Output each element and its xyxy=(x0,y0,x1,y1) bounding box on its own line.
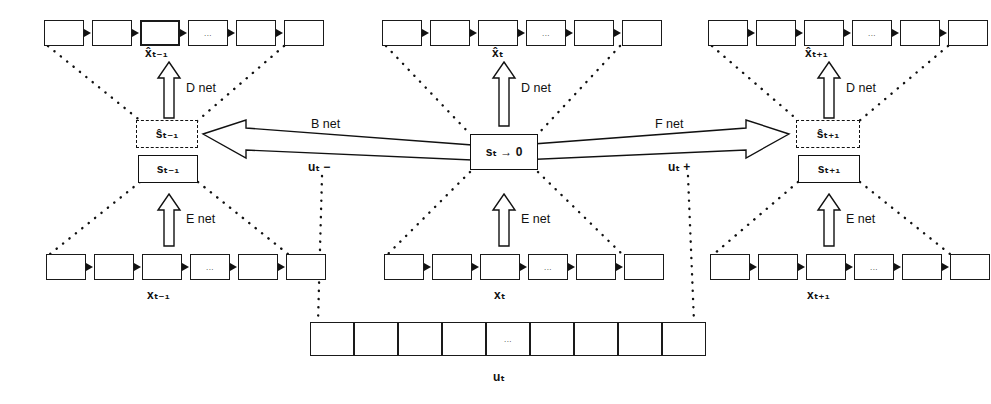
control-cell[interactable] xyxy=(442,322,486,356)
chain-link-arrow-icon xyxy=(566,20,574,46)
sequence-cell[interactable] xyxy=(710,254,750,280)
sequence-cell[interactable] xyxy=(284,20,324,46)
chain-link-arrow-icon xyxy=(942,254,950,280)
sequence-cell[interactable] xyxy=(902,254,942,280)
sequence-cell[interactable] xyxy=(286,254,326,280)
sequence-cell-ellipsis[interactable]: ... xyxy=(526,20,566,46)
chain-link-arrow-icon xyxy=(134,254,142,280)
control-sequence-label: uₜ xyxy=(493,370,505,384)
chain-link-arrow-icon xyxy=(228,20,236,46)
chain-link-arrow-icon xyxy=(276,20,284,46)
output-sequence-chain-t: ... xyxy=(382,20,662,46)
sequence-cell[interactable] xyxy=(806,254,846,280)
sequence-cell[interactable] xyxy=(94,254,134,280)
sequence-cell[interactable] xyxy=(92,20,132,46)
decoder-label-t-minus-1: D net xyxy=(186,81,216,95)
predicted-state-box-t-minus-1[interactable]: ŝₜ₋₁ xyxy=(136,120,198,148)
sequence-cell[interactable] xyxy=(44,20,84,46)
sequence-cell[interactable] xyxy=(758,254,798,280)
b-net-label: B net xyxy=(311,117,340,131)
sequence-cell[interactable] xyxy=(574,20,614,46)
control-cell[interactable] xyxy=(310,322,354,356)
chain-link-arrow-icon xyxy=(616,254,624,280)
chain-link-arrow-icon xyxy=(230,254,238,280)
sequence-cell[interactable] xyxy=(238,254,278,280)
chain-link-arrow-icon xyxy=(86,254,94,280)
control-cell-ellipsis[interactable]: ... xyxy=(486,322,530,356)
chain-link-arrow-icon xyxy=(846,254,854,280)
state-box-t[interactable]: sₜ → 0 xyxy=(470,134,538,170)
f-net-control-label: uₜ + xyxy=(668,160,690,174)
sequence-cell[interactable] xyxy=(756,20,796,46)
chain-link-arrow-icon xyxy=(520,254,528,280)
sequence-cell[interactable] xyxy=(142,254,182,280)
chain-link-arrow-icon xyxy=(940,20,948,46)
control-cell[interactable] xyxy=(662,322,706,356)
chain-link-arrow-icon xyxy=(470,20,478,46)
state-box-t-plus-1[interactable]: sₜ₊₁ xyxy=(798,155,860,183)
sequence-cell[interactable] xyxy=(478,20,518,46)
control-cell[interactable] xyxy=(398,322,442,356)
sequence-cell[interactable] xyxy=(430,20,470,46)
sequence-cell[interactable] xyxy=(46,254,86,280)
output-sequence-chain-t-minus-1: ... xyxy=(44,20,324,46)
decoder-label-t-plus-1: D net xyxy=(846,81,876,95)
e-net-arrow-right xyxy=(818,194,840,246)
encoder-label-t: E net xyxy=(521,212,550,226)
chain-link-arrow-icon xyxy=(518,20,526,46)
control-cell[interactable] xyxy=(354,322,398,356)
chain-link-arrow-icon xyxy=(278,254,286,280)
sequence-cell[interactable] xyxy=(140,20,180,46)
sequence-cell[interactable] xyxy=(950,254,990,280)
sequence-cell-ellipsis[interactable]: ... xyxy=(190,254,230,280)
control-cell[interactable] xyxy=(618,322,662,356)
input-sequence-chain-t-minus-1: ... xyxy=(46,254,326,280)
sequence-cell[interactable] xyxy=(432,254,472,280)
d-net-arrow-right xyxy=(818,62,840,118)
output-sequence-chain-t-plus-1: ... xyxy=(708,20,988,46)
dotted-link-ut-forward xyxy=(688,176,694,322)
chain-link-arrow-icon xyxy=(132,20,140,46)
input-sequence-chain-t-plus-1: ... xyxy=(710,254,990,280)
chain-link-arrow-icon xyxy=(894,254,902,280)
predicted-state-box-t-plus-1[interactable]: ŝₜ₊₁ xyxy=(796,120,860,148)
sequence-cell[interactable] xyxy=(236,20,276,46)
diagram-canvas: .dot{stroke:#111;stroke-width:2.4;stroke… xyxy=(0,0,991,404)
sequence-cell[interactable] xyxy=(622,20,662,46)
sequence-cell-ellipsis[interactable]: ... xyxy=(852,20,892,46)
state-box-t-minus-1[interactable]: sₜ₋₁ xyxy=(138,155,198,183)
d-net-arrow-center xyxy=(493,62,515,126)
input-sequence-label-t: xₜ xyxy=(494,288,505,302)
control-sequence-chain-ut: ... xyxy=(310,322,706,356)
sequence-cell[interactable] xyxy=(900,20,940,46)
chain-link-arrow-icon xyxy=(748,20,756,46)
f-net-label: F net xyxy=(655,117,684,131)
sequence-cell[interactable] xyxy=(576,254,616,280)
sequence-cell[interactable] xyxy=(804,20,844,46)
output-sequence-label-t-plus-1: x̂ₜ₊₁ xyxy=(805,46,828,60)
chain-link-arrow-icon xyxy=(796,20,804,46)
sequence-cell[interactable] xyxy=(382,20,422,46)
chain-link-arrow-icon xyxy=(180,20,188,46)
output-sequence-label-t: x̂ₜ xyxy=(492,46,503,60)
chain-link-arrow-icon xyxy=(424,254,432,280)
sequence-cell-ellipsis[interactable]: ... xyxy=(854,254,894,280)
sequence-cell[interactable] xyxy=(708,20,748,46)
control-cell[interactable] xyxy=(574,322,618,356)
chain-link-arrow-icon xyxy=(844,20,852,46)
sequence-cell[interactable] xyxy=(624,254,664,280)
sequence-cell[interactable] xyxy=(948,20,988,46)
encoder-label-t-plus-1: E net xyxy=(846,212,875,226)
output-sequence-label-t-minus-1: x̂ₜ₋₁ xyxy=(145,46,168,60)
sequence-cell[interactable] xyxy=(384,254,424,280)
sequence-cell-ellipsis[interactable]: ... xyxy=(188,20,228,46)
chain-link-arrow-icon xyxy=(422,20,430,46)
sequence-cell-ellipsis[interactable]: ... xyxy=(528,254,568,280)
sequence-cell[interactable] xyxy=(480,254,520,280)
control-cell[interactable] xyxy=(530,322,574,356)
chain-link-arrow-icon xyxy=(798,254,806,280)
b-net-control-label: uₜ − xyxy=(308,160,330,174)
chain-link-arrow-icon xyxy=(750,254,758,280)
d-net-arrow-left xyxy=(158,62,180,118)
chain-link-arrow-icon xyxy=(614,20,622,46)
